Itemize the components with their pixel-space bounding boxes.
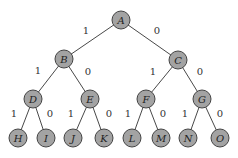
binary-tree-diagram: 10101010101010 ABCDEFGHIJKLMNO bbox=[0, 0, 238, 158]
node-F: F bbox=[137, 90, 155, 108]
node-label: J bbox=[69, 133, 76, 144]
node-A: A bbox=[112, 11, 130, 29]
node-H: H bbox=[9, 129, 27, 147]
edge-label-B-E: 0 bbox=[85, 66, 91, 77]
edge-label-G-N: 1 bbox=[182, 108, 188, 119]
edge-A-B bbox=[64, 20, 121, 59]
edge-label-C-G: 0 bbox=[197, 66, 203, 77]
edge-label-F-L: 1 bbox=[125, 108, 131, 119]
node-C: C bbox=[169, 51, 187, 69]
edge-label-B-D: 1 bbox=[35, 65, 41, 76]
edge-label-D-I: 0 bbox=[47, 108, 53, 119]
edge-label-G-O: 0 bbox=[217, 108, 223, 119]
node-O: O bbox=[211, 129, 229, 147]
node-label: B bbox=[59, 54, 67, 65]
edge-label-F-M: 0 bbox=[160, 108, 166, 119]
node-B: B bbox=[55, 50, 73, 68]
node-K: K bbox=[95, 129, 113, 147]
node-label: G bbox=[198, 94, 206, 105]
edge-label-C-F: 1 bbox=[150, 66, 156, 77]
node-M: M bbox=[152, 129, 170, 147]
node-label: C bbox=[174, 55, 182, 66]
node-G: G bbox=[193, 90, 211, 108]
node-J: J bbox=[64, 129, 82, 147]
node-E: E bbox=[81, 90, 99, 108]
edge-label-A-B: 1 bbox=[83, 25, 89, 36]
node-label: L bbox=[128, 133, 136, 144]
node-label: D bbox=[28, 94, 37, 105]
edge-A-C bbox=[121, 20, 178, 60]
edge-label-E-J: 1 bbox=[68, 108, 74, 119]
tree-edges bbox=[18, 20, 220, 138]
edge-label-E-K: 0 bbox=[106, 108, 112, 119]
node-label: F bbox=[142, 94, 151, 105]
node-N: N bbox=[179, 129, 197, 147]
edge-label-A-C: 0 bbox=[154, 25, 160, 36]
edge-labels: 10101010101010 bbox=[11, 25, 223, 119]
node-label: A bbox=[116, 15, 124, 26]
edge-label-D-H: 1 bbox=[11, 108, 17, 119]
node-label: N bbox=[183, 133, 194, 144]
node-label: M bbox=[155, 133, 167, 144]
node-L: L bbox=[123, 129, 141, 147]
node-I: I bbox=[37, 129, 55, 147]
node-label: O bbox=[216, 133, 224, 144]
node-label: K bbox=[99, 133, 108, 144]
node-label: H bbox=[13, 133, 23, 144]
node-label: E bbox=[85, 94, 94, 105]
node-D: D bbox=[24, 90, 42, 108]
